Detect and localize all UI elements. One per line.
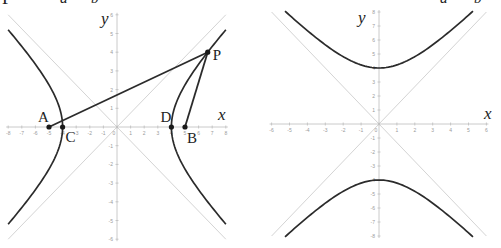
hyperbola-figures: -8-7-6-5-4-3-2-1012345678-6-5-4-3-2-1123… [0,0,501,248]
y-tick-label: 1 [110,105,113,111]
y-tick-label: 2 [110,87,113,93]
point-label-P: P [213,47,221,63]
x-tick-label: -1 [101,130,106,136]
y-tick-label: 5 [110,31,113,37]
x-tick-label: 0 [113,130,116,136]
y-tick-label: -5 [109,218,114,224]
point-B [182,124,187,129]
x-tick-label: -8 [6,130,11,136]
y-tick-label: -2 [371,149,376,155]
x-tick-label: -5 [287,127,292,133]
y-tick-label: 3 [372,79,375,85]
y-tick-label: -8 [371,233,376,239]
x-axis-label: x [217,105,226,124]
point-C [60,124,65,129]
y-tick-label: 7 [372,23,375,29]
x-tick-label: -6 [33,130,38,136]
x-tick-label: 2 [143,130,146,136]
point-label-D: D [160,109,171,125]
y-tick-label: -3 [109,180,114,186]
x-tick-label: 3 [431,127,434,133]
y-tick-label: -2 [109,161,114,167]
x-tick-label: 6 [485,127,488,133]
y-tick-label: 4 [110,49,113,55]
y-tick-label: -7 [371,219,376,225]
x-tick-label: 1 [396,127,399,133]
x-tick-label: -7 [20,130,25,136]
horizontal-hyperbola-plot: -8-7-6-5-4-3-2-1012345678-6-5-4-3-2-1123… [6,9,228,242]
y-tick-label: -5 [371,191,376,197]
x-tick-label: 4 [449,127,452,133]
x-tick-label: -2 [88,130,93,136]
y-tick-label: 3 [110,68,113,74]
x-tick-label: -2 [341,127,346,133]
point-label-A: A [38,109,49,125]
x-tick-label: -5 [47,130,52,136]
y-axis-label: y [99,9,109,28]
point-label-B: B [187,130,197,146]
y-tick-label: -1 [371,135,376,141]
x-tick-label: 5 [467,127,470,133]
x-tick-label: -6 [269,127,274,133]
y-axis-label: y [356,8,366,27]
y-tick-label: 6 [110,12,113,18]
y-tick-label: -6 [371,205,376,211]
x-tick-label: 0 [375,127,378,133]
y-tick-label: -3 [371,163,376,169]
x-tick-label: -3 [323,127,328,133]
x-tick-label: 7 [211,130,214,136]
x-tick-label: 3 [156,130,159,136]
y-tick-label: 1 [372,107,375,113]
point-label-C: C [66,129,76,145]
point-D [169,124,174,129]
segment-BP [185,52,208,127]
x-tick-label: -1 [359,127,364,133]
x-tick-label: 6 [197,130,200,136]
x-tick-label: -4 [305,127,310,133]
x-tick-label: 8 [224,130,227,136]
point-P [205,50,210,55]
y-tick-label: -6 [109,236,114,242]
y-tick-label: -1 [109,143,114,149]
x-tick-label: 1 [129,130,132,136]
y-tick-label: 5 [372,51,375,57]
vertical-hyperbola-plot: -6-5-4-3-2-10123456-8-7-6-5-4-3-2-112345… [269,8,492,239]
point-A [46,124,51,129]
x-tick-label: 2 [413,127,416,133]
y-tick-label: 6 [372,37,375,43]
x-axis-label: x [483,104,492,123]
y-tick-label: 8 [372,9,375,15]
y-tick-label: 2 [372,93,375,99]
y-tick-label: -4 [109,199,114,205]
